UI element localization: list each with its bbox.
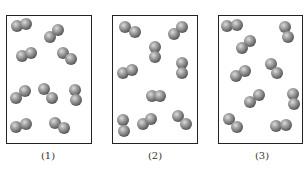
atom-sphere	[118, 125, 130, 137]
atom-sphere	[180, 118, 192, 130]
atom-sphere	[231, 121, 243, 133]
molecule-2-8	[137, 113, 157, 130]
atom-sphere	[117, 114, 129, 126]
atom-sphere	[145, 113, 157, 125]
molecule-3-2	[279, 21, 294, 43]
molecule-2-5	[176, 57, 188, 79]
atom-sphere	[19, 85, 31, 97]
atom-sphere	[52, 24, 64, 36]
molecule-3-5	[265, 58, 283, 79]
atom-sphere	[231, 19, 243, 31]
molecule-3-4	[230, 65, 251, 82]
atom-sphere	[70, 94, 82, 106]
atom-sphere	[20, 118, 32, 130]
atom-sphere	[65, 53, 77, 65]
molecule-2-6	[146, 90, 166, 102]
molecule-2-3	[149, 41, 161, 63]
atom-sphere	[176, 21, 188, 33]
molecule-1-9	[49, 117, 70, 134]
molecule-2-7	[117, 114, 130, 137]
atom-sphere	[129, 26, 141, 38]
molecule-2-2	[168, 21, 188, 40]
molecule-3-8	[223, 113, 243, 133]
atom-sphere	[253, 89, 265, 101]
molecule-1-8	[10, 118, 32, 133]
molecule-1-2	[44, 24, 64, 43]
atom-sphere	[244, 35, 256, 47]
atom-sphere	[149, 51, 161, 63]
molecule-1-4	[57, 47, 77, 65]
atom-sphere	[25, 47, 37, 59]
molecule-1-3	[16, 47, 37, 62]
atom-sphere	[126, 64, 138, 76]
molecule-3-6	[244, 89, 265, 108]
molecule-1-7	[69, 84, 82, 106]
molecule-3-1	[221, 19, 243, 32]
atom-sphere	[38, 83, 50, 95]
molecule-2-1	[119, 21, 141, 38]
atom-sphere	[239, 65, 251, 77]
atom-sphere	[288, 98, 300, 110]
atom-sphere	[154, 90, 166, 102]
molecule-1-6	[38, 83, 58, 104]
molecule-1-5	[10, 85, 31, 104]
atom-sphere	[280, 119, 292, 131]
atom-sphere	[271, 67, 283, 79]
molecule-1-1	[11, 18, 32, 32]
atom-sphere	[20, 18, 32, 30]
molecules-layer	[0, 0, 306, 176]
atom-sphere	[282, 31, 294, 43]
atom-sphere	[46, 92, 58, 104]
molecule-3-7	[287, 88, 300, 110]
atom-sphere	[58, 122, 70, 134]
molecule-2-4	[117, 64, 138, 79]
molecule-2-9	[172, 110, 192, 130]
molecule-3-3	[236, 35, 256, 54]
atom-sphere	[176, 67, 188, 79]
molecule-3-9	[270, 119, 292, 132]
